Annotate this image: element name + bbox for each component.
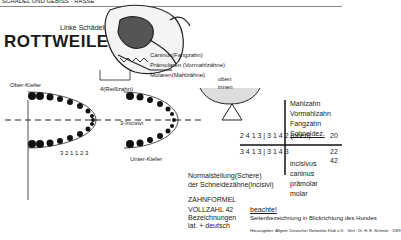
normal-position-line1: Normalstellung(Schere)	[188, 172, 262, 180]
term-incisivus: incisivus	[290, 160, 316, 168]
upper-jaw-label: Ober-Kiefer	[10, 82, 41, 89]
formula-grand-total: 42	[330, 157, 338, 165]
seitenbezeichnung-note: Seitenbezeichnung in Blickrichtung des H…	[250, 215, 377, 222]
vollzahl-label: VOLLZAHL 42	[188, 206, 233, 214]
lower-jaw-label: Unter-Kiefer	[130, 156, 162, 163]
premolar-desc: Prämolaren (Vormahlzähne)	[150, 62, 225, 69]
beachte-label: beachte!	[250, 206, 277, 214]
term-pramolar: prämolar	[290, 180, 318, 188]
zahnformel-label: ZAHNFORMEL	[188, 196, 236, 204]
term-molar: molar	[290, 190, 308, 198]
molar-desc: Molaren(Mahlzähne)	[150, 72, 205, 79]
molar-bracket	[100, 70, 130, 80]
incisivi-label: 3-Incisivi	[120, 120, 143, 127]
formula-lower-total: 22	[330, 148, 338, 156]
lat-deutsch-label: lat. + deutsch	[188, 222, 230, 230]
oben-label: oben	[218, 76, 231, 83]
term-schneidez: Schneidez.	[290, 130, 325, 138]
publisher-footer: Herausgeber: Allgem. Deutscher Rottweile…	[250, 228, 401, 233]
reisszahn-label: 4(Reißzahn)	[100, 86, 133, 93]
innen-label: innen	[218, 84, 233, 91]
incisivi-numbers: 3 2 1 1 2 3	[60, 150, 88, 157]
canine-desc: Caninus(Fangzahn)	[150, 52, 203, 59]
normal-position-line2: der Schneidezähne(incisivi)	[188, 181, 274, 189]
bezeichnungen-label: Bezeichnungen	[188, 214, 236, 222]
term-fangzahn: Fangzahn	[290, 120, 321, 128]
arrow-triangle	[222, 104, 242, 120]
formula-upper-total: 20	[330, 132, 338, 140]
formula-lower-row: 3 4 1 3 | 3 1 4 3	[240, 148, 289, 156]
term-caninus: caninus	[290, 170, 314, 178]
term-vormahlzahn: Vormahlzahn	[290, 110, 331, 118]
term-mahlzahn: Mahlzahn	[290, 100, 320, 108]
